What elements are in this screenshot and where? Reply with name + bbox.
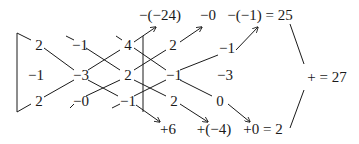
bottom-term-3: +0 = 2: [243, 122, 282, 137]
cell-r3c2: −0: [73, 94, 89, 109]
cell-r3c3: −1: [120, 94, 136, 109]
bottom-term-1: +6: [160, 122, 176, 137]
bottom-term-2: +(−4): [197, 122, 231, 137]
cell-r3c1: 2: [35, 94, 43, 109]
cell-r1c4: 2: [169, 38, 177, 53]
cell-r2c1: −1: [28, 68, 44, 83]
cell-r1c5: −1: [219, 41, 235, 56]
cell-r3c5: 0: [216, 94, 224, 109]
cell-r2c5: −3: [217, 68, 233, 83]
top-term-2: −0: [200, 8, 216, 23]
cell-r2c2: −3: [73, 68, 89, 83]
top-term-1: −(−24): [139, 8, 181, 23]
cell-r1c1: 2: [35, 38, 43, 53]
cell-r3c4: 2: [170, 94, 178, 109]
total-result: + = 27: [307, 70, 346, 85]
cell-r1c3: 4: [124, 38, 132, 53]
top-term-3: −(−1) = 25: [227, 8, 292, 23]
cell-r1c2: −1: [72, 38, 88, 53]
cell-r2c3: 2: [124, 68, 132, 83]
cell-r2c4: −1: [166, 68, 182, 83]
sarrus-diagram: 2 −1 4 2 −1 −1 −3 2 −1 −3 2 −0 −1 2 0 −(…: [0, 0, 359, 144]
